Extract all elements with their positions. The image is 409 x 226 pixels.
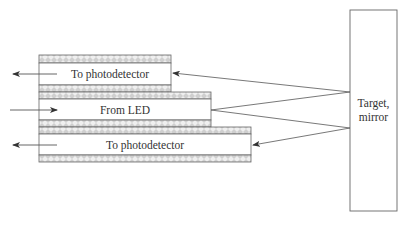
fiber-top-label: To photodetector <box>71 68 149 81</box>
cladding-top-lower <box>39 85 171 92</box>
cladding-bottom-upper <box>39 127 251 134</box>
ray-return-top-icon <box>173 73 350 92</box>
cladding-middle-upper <box>39 92 211 99</box>
cladding-bottom-lower <box>39 155 251 162</box>
target-label-line1: Target, <box>358 97 390 110</box>
fiber-middle: From LED <box>39 92 211 127</box>
target-mirror: Target, mirror <box>350 10 397 211</box>
fiber-bottom: To photodetector <box>39 127 251 162</box>
fiber-bottom-label: To photodetector <box>106 139 184 152</box>
target-label-line2: mirror <box>359 111 389 123</box>
fiber-top: To photodetector <box>39 55 171 92</box>
cladding-top-upper <box>39 55 171 63</box>
fiber-sensor-diagram: To photodetector From LED To photodetect… <box>0 0 409 226</box>
ray-emit-lower <box>211 110 350 128</box>
ray-emit-upper <box>211 92 350 110</box>
fiber-middle-label: From LED <box>100 104 150 116</box>
ray-return-bottom-icon <box>253 128 350 145</box>
cladding-middle-lower <box>39 120 211 127</box>
